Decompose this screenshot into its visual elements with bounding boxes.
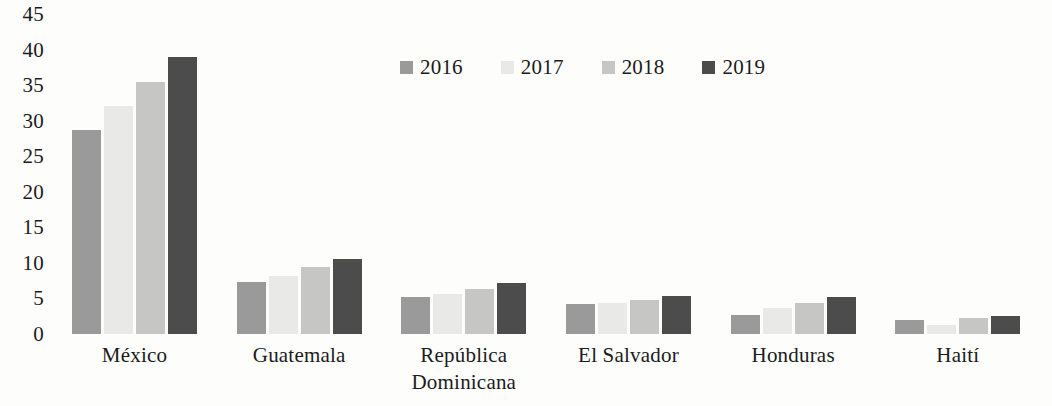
bar <box>301 267 330 334</box>
bar <box>630 300 659 334</box>
bar <box>136 82 165 334</box>
legend-item-2018: 2018 <box>602 57 665 78</box>
y-axis-tick-label: 15 <box>0 217 44 238</box>
bar <box>927 325 956 334</box>
x-axis-category-label: El Salvador <box>544 342 714 369</box>
legend-swatch-icon <box>602 61 615 74</box>
bar <box>401 297 430 334</box>
legend-label: 2018 <box>622 57 665 78</box>
bar <box>237 282 266 334</box>
bar <box>731 315 760 334</box>
bar-group <box>72 14 197 334</box>
x-axis-category-label: México <box>50 342 220 369</box>
y-axis-tick-label: 0 <box>0 324 44 345</box>
x-axis-category-label: República Dominicana <box>379 342 549 396</box>
bar <box>566 304 595 334</box>
legend-swatch-icon <box>702 61 715 74</box>
bar <box>465 289 494 334</box>
bar <box>72 130 101 334</box>
x-axis-category-label: Guatemala <box>214 342 384 369</box>
y-axis-tick-label: 20 <box>0 181 44 202</box>
bar <box>662 296 691 334</box>
x-axis: MéxicoGuatemalaRepública DominicanaEl Sa… <box>56 342 1044 406</box>
bar-group <box>895 14 1020 334</box>
y-axis: 454035302520151050 <box>0 0 44 340</box>
x-axis-category-label: Haití <box>873 342 1043 369</box>
legend-item-2017: 2017 <box>501 57 564 78</box>
bar <box>795 303 824 334</box>
y-axis-tick-label: 45 <box>0 4 44 25</box>
bar <box>763 308 792 334</box>
y-axis-tick-label: 40 <box>0 39 44 60</box>
y-axis-tick-label: 10 <box>0 252 44 273</box>
bar <box>269 276 298 334</box>
legend-item-2016: 2016 <box>400 57 463 78</box>
legend-swatch-icon <box>501 61 514 74</box>
legend-label: 2019 <box>722 57 765 78</box>
y-axis-tick-label: 25 <box>0 146 44 167</box>
y-axis-tick-label: 5 <box>0 288 44 309</box>
bar <box>827 297 856 334</box>
bar <box>959 318 988 334</box>
bar <box>433 294 462 334</box>
bar-chart: 454035302520151050 2016201720182019 Méxi… <box>0 0 1052 406</box>
bar <box>333 259 362 334</box>
bar <box>168 57 197 334</box>
x-axis-category-label: Honduras <box>708 342 878 369</box>
bar <box>991 316 1020 334</box>
bar <box>497 283 526 334</box>
bar <box>895 320 924 334</box>
legend-label: 2016 <box>420 57 463 78</box>
bar-group <box>237 14 362 334</box>
bar <box>598 303 627 334</box>
y-axis-tick-label: 30 <box>0 110 44 131</box>
bar <box>104 106 133 334</box>
y-axis-tick-label: 35 <box>0 75 44 96</box>
chart-legend: 2016201720182019 <box>400 57 765 78</box>
legend-item-2019: 2019 <box>702 57 765 78</box>
legend-swatch-icon <box>400 61 413 74</box>
legend-label: 2017 <box>521 57 564 78</box>
